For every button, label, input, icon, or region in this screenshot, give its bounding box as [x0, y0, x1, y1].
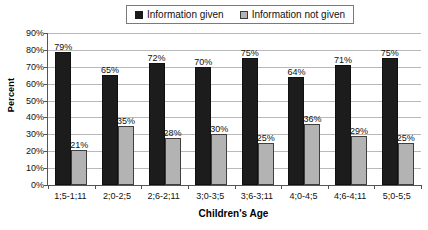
y-axis-title: Percent — [6, 65, 16, 125]
bar-information-given: 75% — [242, 58, 258, 185]
bar-information-not-given: 35% — [118, 126, 134, 185]
bar-group: 75%25% — [374, 33, 421, 185]
x-tick-mark — [328, 185, 329, 189]
bar-value-label: 36% — [303, 114, 321, 124]
bar-value-label: 72% — [148, 53, 166, 63]
x-tick-mark — [374, 185, 375, 189]
bar-group: 70%30% — [188, 33, 235, 185]
chart-legend: Information given Information not given — [126, 5, 354, 24]
x-tick-label: 3;6-3;11 — [234, 191, 281, 201]
bar-information-not-given: 36% — [304, 124, 320, 185]
bar-value-label: 25% — [397, 133, 415, 143]
legend-label-information-given: Information given — [147, 9, 224, 20]
bar-information-not-given: 21% — [71, 150, 87, 185]
bar-value-label: 35% — [117, 116, 135, 126]
bar-information-not-given: 30% — [211, 134, 227, 185]
y-tick-label: 30% — [26, 130, 44, 139]
y-tick-label: 40% — [26, 113, 44, 122]
bar-group: 79%21% — [48, 33, 95, 185]
bar-value-label: 75% — [241, 48, 259, 58]
x-tick-mark — [95, 185, 96, 189]
bar-information-not-given: 25% — [398, 143, 414, 185]
bar-value-label: 70% — [194, 57, 212, 67]
x-tick-label: 4;6-4;11 — [327, 191, 374, 201]
x-tick-mark — [48, 185, 49, 189]
bar-information-given: 72% — [149, 63, 165, 185]
bar-information-not-given: 25% — [258, 143, 274, 185]
bar-information-not-given: 28% — [165, 138, 181, 185]
y-tick-label: 10% — [26, 164, 44, 173]
bar-information-not-given: 29% — [351, 136, 367, 185]
bar-group: 64%36% — [281, 33, 328, 185]
bar-information-given: 65% — [102, 75, 118, 185]
x-axis-ticks — [48, 185, 421, 189]
legend-swatch-information-given — [135, 11, 143, 19]
legend-label-information-not-given: Information not given — [252, 9, 345, 20]
x-tick-label: 3;0-3;5 — [187, 191, 234, 201]
x-axis-labels: 1;5-1;112;0-2;52;6-2;113;0-3;53;6-3;114;… — [47, 191, 420, 201]
bar-information-given: 75% — [382, 58, 398, 185]
x-tick-mark — [188, 185, 189, 189]
y-tick-label: 0% — [31, 181, 44, 190]
bar-value-label: 75% — [381, 48, 399, 58]
bar-information-given: 71% — [335, 65, 351, 185]
x-tick-mark — [141, 185, 142, 189]
y-tick-label: 20% — [26, 147, 44, 156]
y-tick-label: 60% — [26, 79, 44, 88]
bar-information-given: 79% — [55, 52, 71, 185]
bar-group: 72%28% — [141, 33, 188, 185]
bar-value-label: 79% — [54, 42, 72, 52]
x-tick-mark — [235, 185, 236, 189]
x-tick-mark — [421, 185, 422, 189]
x-axis-title: Children's Age — [47, 208, 420, 219]
plot-area: 0%10%20%30%40%50%60%70%80%90% 79%21%65%3… — [47, 33, 421, 186]
bar-information-given: 64% — [288, 77, 304, 185]
bar-value-label: 28% — [164, 128, 182, 138]
y-tick-label: 50% — [26, 96, 44, 105]
bar-value-label: 21% — [70, 140, 88, 150]
legend-item-information-not-given: Information not given — [240, 9, 345, 20]
bar-group: 75%25% — [235, 33, 282, 185]
bar-value-label: 64% — [287, 67, 305, 77]
legend-swatch-information-not-given — [240, 11, 248, 19]
x-tick-label: 1;5-1;11 — [47, 191, 94, 201]
bar-value-label: 65% — [101, 65, 119, 75]
x-tick-label: 4;0-4;5 — [280, 191, 327, 201]
bar-value-label: 29% — [350, 126, 368, 136]
x-tick-label: 2;6-2;11 — [140, 191, 187, 201]
y-tick-label: 70% — [26, 62, 44, 71]
bar-value-label: 30% — [210, 124, 228, 134]
bar-information-given: 70% — [195, 67, 211, 185]
bar-group: 65%35% — [95, 33, 142, 185]
x-tick-label: 5;0-5;5 — [373, 191, 420, 201]
legend-item-information-given: Information given — [135, 9, 224, 20]
y-tick-label: 90% — [26, 29, 44, 38]
bar-chart: Information given Information not given … — [0, 0, 428, 230]
x-tick-label: 2;0-2;5 — [94, 191, 141, 201]
bar-value-label: 71% — [334, 55, 352, 65]
bar-value-label: 25% — [257, 133, 275, 143]
bar-group: 71%29% — [328, 33, 375, 185]
y-tick-label: 80% — [26, 45, 44, 54]
bar-groups: 79%21%65%35%72%28%70%30%75%25%64%36%71%2… — [48, 33, 421, 185]
x-tick-mark — [281, 185, 282, 189]
